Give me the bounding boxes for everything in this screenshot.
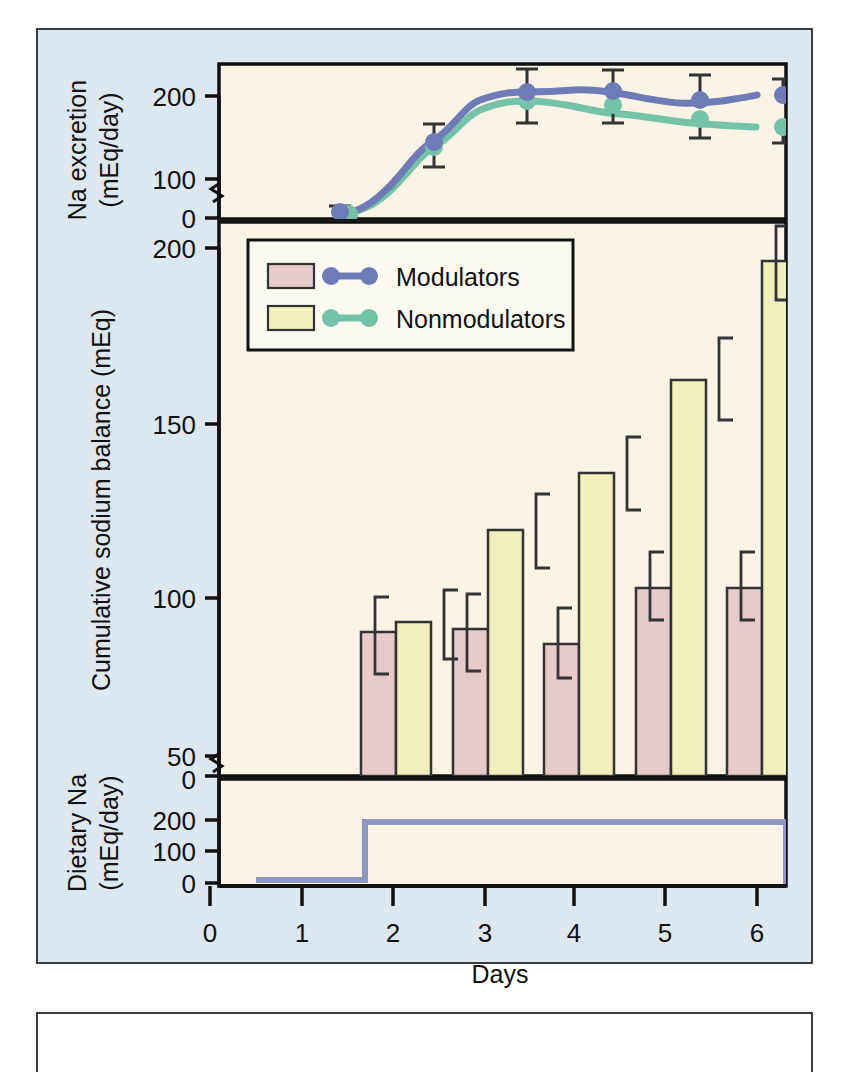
legend-marker-nonmodulators-left xyxy=(322,309,340,327)
bottom-panel-ytick-0: 0 xyxy=(182,869,196,899)
bottom-panel-yaxis xyxy=(205,779,219,884)
legend-box xyxy=(248,240,573,350)
x-tick-5: 5 xyxy=(658,918,672,948)
top-panel-ytick-100: 100 xyxy=(153,165,196,195)
top-panel-ytick-0: 0 xyxy=(182,204,196,234)
x-tick-3: 3 xyxy=(478,918,492,948)
bar-nonmodulator-day2 xyxy=(396,622,431,776)
middle-panel-yaxis xyxy=(205,248,219,777)
x-axis-ticks xyxy=(210,886,757,906)
bottom-panel-ytick-200: 200 xyxy=(153,806,196,836)
bottom-panel-ytick-100: 100 xyxy=(153,837,196,867)
legend-swatch-nonmodulators xyxy=(268,306,314,330)
bar-nonmodulator-day5 xyxy=(671,380,706,776)
bottom-panel-ylabel-line2: (mEq/day) xyxy=(95,775,123,890)
x-tick-2: 2 xyxy=(386,918,400,948)
panel-dietary-na: 200 100 0 Dietary Na (mEq/day) xyxy=(63,774,786,899)
bar-nonmodulator-day6 xyxy=(762,261,797,776)
top-panel-ytick-200: 200 xyxy=(153,82,196,112)
bar-modulator-day3 xyxy=(453,629,488,776)
middle-panel-ytick-200: 200 xyxy=(153,234,196,264)
top-panel-ylabel-line1: Na excretion xyxy=(63,80,91,220)
bar-modulator-day2 xyxy=(361,632,396,776)
bar-modulator-day5 xyxy=(636,588,671,776)
top-panel-ylabel-line2: (mEq/day) xyxy=(95,92,123,207)
middle-panel-ytick-0: 0 xyxy=(182,765,196,795)
x-tick-0: 0 xyxy=(203,918,217,948)
middle-panel-ytick-150: 150 xyxy=(153,410,196,440)
legend-marker-nonmodulators-right xyxy=(360,309,378,327)
x-axis: 0 1 2 3 4 5 6 Days xyxy=(203,886,786,988)
bar-nonmodulator-day3 xyxy=(488,530,523,776)
legend-marker-modulators-right xyxy=(360,267,378,285)
legend-marker-modulators-left xyxy=(322,267,340,285)
bar-modulator-day4 xyxy=(544,644,579,776)
panel-cumulative-sodium-balance: 200 150 100 50 0 Cumulative sodium balan… xyxy=(87,222,797,795)
bottom-panel-ylabel-line1: Dietary Na xyxy=(63,774,91,892)
x-tick-6: 6 xyxy=(750,918,764,948)
legend-swatch-modulators xyxy=(268,264,314,288)
legend-label-nonmodulators: Nonmodulators xyxy=(396,305,566,333)
x-axis-label: Days xyxy=(472,960,529,988)
x-tick-4: 4 xyxy=(567,918,581,948)
legend-label-modulators: Modulators xyxy=(396,263,520,291)
middle-panel-ylabel: Cumulative sodium balance (mEq) xyxy=(87,309,115,691)
chart-legend: Modulators Nonmodulators xyxy=(248,240,573,350)
middle-panel-ytick-100: 100 xyxy=(153,584,196,614)
panel-na-excretion: 200 100 0 Na excretion (mEq/day) xyxy=(63,64,794,234)
x-tick-1: 1 xyxy=(295,918,309,948)
bottom-panel-plot-area xyxy=(219,779,786,886)
bar-modulator-day6 xyxy=(727,588,762,776)
bar-nonmodulator-day4 xyxy=(579,473,614,776)
